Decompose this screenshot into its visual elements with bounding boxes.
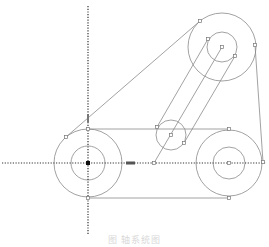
control-point-handle[interactable] — [156, 126, 159, 129]
control-point-handle[interactable] — [87, 128, 90, 131]
control-point-handle[interactable] — [65, 136, 68, 139]
arm-line — [154, 47, 222, 163]
control-point-handle[interactable] — [153, 162, 156, 165]
control-point-handle[interactable] — [228, 128, 231, 131]
control-point-handle[interactable] — [228, 197, 231, 200]
control-point-handle[interactable] — [207, 38, 210, 41]
control-point-handle[interactable] — [221, 46, 224, 49]
control-point-handle[interactable] — [87, 197, 90, 200]
control-point-handle[interactable] — [228, 162, 231, 165]
control-point-handle[interactable] — [234, 55, 237, 58]
control-point-handle[interactable] — [262, 161, 265, 164]
axis-drag-marker[interactable] — [126, 162, 135, 165]
control-point-handle[interactable] — [170, 134, 173, 137]
control-point-handle[interactable] — [254, 44, 257, 47]
control-point-handle[interactable] — [183, 142, 186, 145]
figure-caption: 图 轴系统图 — [0, 233, 269, 246]
control-point-handle[interactable] — [199, 20, 202, 23]
vertical-axis-marker[interactable] — [87, 114, 89, 122]
belt-drive-diagram — [0, 0, 269, 247]
origin-marker — [86, 161, 90, 165]
